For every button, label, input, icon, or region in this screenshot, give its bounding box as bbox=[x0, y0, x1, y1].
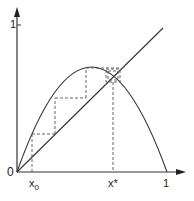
x-axis-arrow-icon bbox=[176, 169, 186, 175]
y-axis-arrow-icon bbox=[14, 7, 20, 17]
x0-base: x bbox=[29, 177, 35, 189]
parabola-curve bbox=[17, 67, 167, 172]
x-axis-one-label: 1 bbox=[163, 178, 169, 189]
origin-label: 0 bbox=[7, 166, 14, 178]
x0-subscript: 0 bbox=[35, 183, 39, 192]
cobweb-diagram: 1 0 x0 x* 1 bbox=[0, 0, 194, 201]
xstar-label: x* bbox=[108, 178, 118, 189]
y-axis-one-label: 1 bbox=[10, 19, 16, 30]
identity-line bbox=[17, 28, 163, 172]
x0-label: x0 bbox=[29, 178, 39, 189]
diagram-graphics bbox=[0, 0, 194, 201]
